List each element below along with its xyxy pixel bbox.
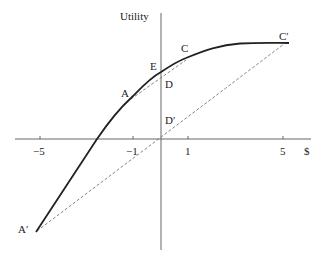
utility-diagram xyxy=(0,0,326,258)
utility-curve xyxy=(36,43,289,232)
point-label-e: E xyxy=(150,61,157,72)
chord-a-c xyxy=(131,60,186,99)
point-label-a: A xyxy=(121,88,129,99)
y-axis-label: Utility xyxy=(120,11,149,22)
point-label-d-prime: D′ xyxy=(165,115,175,126)
point-label-c: C xyxy=(181,43,188,54)
point-label-c-prime: C′ xyxy=(279,31,289,42)
tick-label-5: 5 xyxy=(280,146,286,157)
tick-label-1: 1 xyxy=(185,146,191,157)
tick-label-neg5: −5 xyxy=(33,146,45,157)
point-label-a-prime: A′ xyxy=(18,224,28,235)
x-axis-label: $ xyxy=(304,146,310,157)
point-label-d: D xyxy=(165,79,173,90)
tick-label-neg1: −1 xyxy=(126,146,138,157)
